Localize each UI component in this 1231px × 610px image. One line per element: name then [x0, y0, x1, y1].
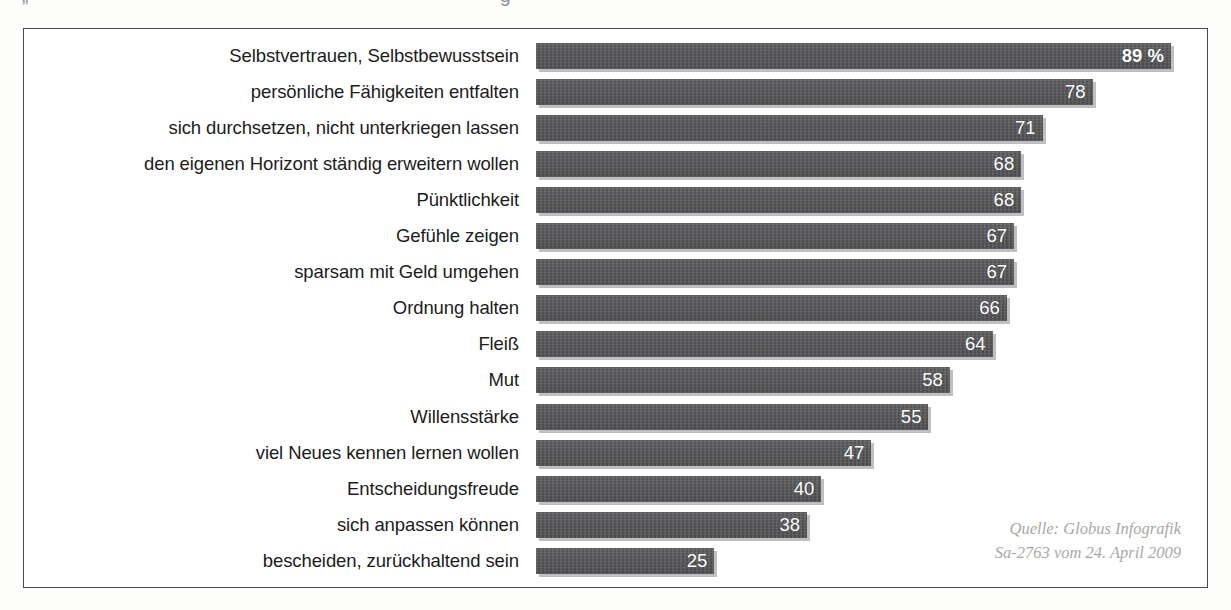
bar-container: 38 [536, 512, 807, 538]
clipped-title-fragment-left: „ [22, 0, 28, 7]
bar-value-label: 89 % [1122, 47, 1164, 66]
bar: 58 [536, 367, 950, 393]
bar: 66 [536, 295, 1007, 321]
bar-value-label: 78 [1065, 83, 1086, 102]
category-label: sparsam mit Geld umgehen [294, 261, 519, 283]
category-label: Pünktlichkeit [416, 189, 519, 211]
bar-row: viel Neues kennen lernen wollen47 [24, 440, 1207, 466]
bar-row: Fleiß64 [24, 331, 1207, 357]
bar-row: den eigenen Horizont ständig erweitern w… [24, 151, 1207, 177]
category-label: Selbstvertrauen, Selbstbewusstsein [229, 45, 519, 67]
bar-value-label: 25 [687, 551, 708, 570]
bar-value-label: 55 [901, 407, 922, 426]
bar-row: Entscheidungsfreude40 [24, 476, 1207, 502]
bar: 68 [536, 187, 1021, 213]
bar-container: 40 [536, 476, 821, 502]
bar-value-label: 64 [965, 335, 986, 354]
bar: 40 [536, 476, 821, 502]
bar-value-label: 38 [780, 515, 801, 534]
bar-value-label: 68 [994, 191, 1015, 210]
bar-container: 71 [536, 115, 1043, 141]
bar-container: 67 [536, 223, 1014, 249]
bar-container: 67 [536, 259, 1014, 285]
category-label: Willensstärke [410, 406, 519, 428]
bar: 47 [536, 440, 871, 466]
bar: 55 [536, 404, 928, 430]
bar-row: Willensstärke55 [24, 404, 1207, 430]
category-label: Gefühle zeigen [396, 225, 519, 247]
category-label: sich durchsetzen, nicht unterkriegen las… [169, 117, 519, 139]
bar-container: 55 [536, 404, 928, 430]
bar-row: Pünktlichkeit68 [24, 187, 1207, 213]
bar-row: sparsam mit Geld umgehen67 [24, 259, 1207, 285]
source-note-line-2: Sa-2763 vom 24. April 2009 [995, 541, 1181, 565]
bar-row: Mut58 [24, 367, 1207, 393]
category-label: Mut [488, 369, 519, 391]
bar-row: Selbstvertrauen, Selbstbewusstsein89 % [24, 43, 1207, 69]
bar-container: 66 [536, 295, 1007, 321]
bar-value-label: 67 [986, 263, 1007, 282]
category-label: sich anpassen können [337, 514, 519, 536]
bar-value-label: 67 [986, 227, 1007, 246]
bar-container: 25 [536, 548, 714, 574]
bar: 78 [536, 79, 1093, 105]
bar: 38 [536, 512, 807, 538]
bar-container: 68 [536, 187, 1021, 213]
bar: 67 [536, 259, 1014, 285]
bar: 25 [536, 548, 714, 574]
category-label: viel Neues kennen lernen wollen [256, 442, 519, 464]
category-label: den eigenen Horizont ständig erweitern w… [144, 153, 519, 175]
bar: 89 % [536, 43, 1171, 69]
chart-frame: Selbstvertrauen, Selbstbewusstsein89 %pe… [23, 28, 1208, 588]
bar: 68 [536, 151, 1021, 177]
category-label: bescheiden, zurückhaltend sein [263, 550, 519, 572]
clipped-title-fragment-right: g [500, 0, 511, 7]
bar-value-label: 40 [794, 479, 815, 498]
bar-value-label: 71 [1015, 119, 1036, 138]
bar: 67 [536, 223, 1014, 249]
category-label: Entscheidungsfreude [347, 478, 519, 500]
bar-row: sich durchsetzen, nicht unterkriegen las… [24, 115, 1207, 141]
clipped-title-strip: „ g [0, 0, 1231, 16]
bar-container: 78 [536, 79, 1093, 105]
category-label: Ordnung halten [393, 297, 519, 319]
bar-container: 68 [536, 151, 1021, 177]
bar-container: 89 % [536, 43, 1171, 69]
bar-row: Gefühle zeigen67 [24, 223, 1207, 249]
bar-value-label: 58 [922, 371, 943, 390]
bar: 64 [536, 331, 993, 357]
bar-value-label: 47 [844, 443, 865, 462]
source-note-line-1: Quelle: Globus Infografik [995, 517, 1181, 541]
bar-row: Ordnung halten66 [24, 295, 1207, 321]
bar-container: 58 [536, 367, 950, 393]
category-label: persönliche Fähigkeiten entfalten [251, 81, 519, 103]
bar-container: 47 [536, 440, 871, 466]
bar-row: persönliche Fähigkeiten entfalten78 [24, 79, 1207, 105]
bar-value-label: 66 [979, 299, 1000, 318]
source-note: Quelle: Globus Infografik Sa-2763 vom 24… [995, 517, 1181, 565]
bar-container: 64 [536, 331, 993, 357]
bar-chart-plot-area: Selbstvertrauen, Selbstbewusstsein89 %pe… [24, 29, 1207, 587]
bar-value-label: 68 [994, 155, 1015, 174]
category-label: Fleiß [478, 333, 519, 355]
bar: 71 [536, 115, 1043, 141]
